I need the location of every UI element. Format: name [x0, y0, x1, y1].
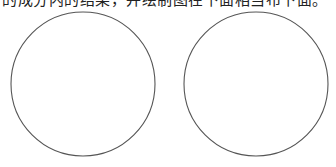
right-circle [184, 12, 328, 156]
blank-circles-figure [0, 0, 336, 167]
left-circle [11, 12, 155, 156]
